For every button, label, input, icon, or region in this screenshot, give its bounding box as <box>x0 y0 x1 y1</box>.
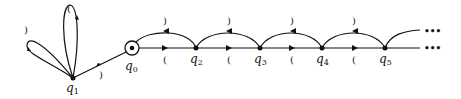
svg-text:q1: q1 <box>66 81 79 96</box>
svg-text:): ) <box>99 69 103 80</box>
forward-chain: ( ( ( ( <box>139 45 420 65</box>
svg-text:(: ( <box>163 54 167 65</box>
continuation-top: ••• <box>424 26 441 36</box>
state-q0: q0 <box>125 41 139 74</box>
loop-q1-open: ( <box>64 3 79 78</box>
svg-text:q5: q5 <box>379 52 392 67</box>
svg-text:q0: q0 <box>125 59 138 74</box>
svg-text:): ) <box>163 15 167 26</box>
edge-q0-q1: ) <box>73 52 126 80</box>
state-q4: q4 <box>316 46 329 68</box>
svg-text:(: ( <box>352 54 356 65</box>
continuation-bottom: ••• <box>424 43 441 53</box>
svg-text:): ) <box>24 24 28 35</box>
state-q2: q2 <box>190 46 203 68</box>
state-q3: q3 <box>254 46 267 68</box>
svg-text:(: ( <box>67 3 71 14</box>
automaton-diagram: ( ) ) ( ( ( ( ) ) ) ) ••• <box>0 0 461 99</box>
svg-text:): ) <box>227 15 231 26</box>
svg-text:(: ( <box>290 54 294 65</box>
svg-text:q2: q2 <box>190 52 203 67</box>
svg-text:(: ( <box>227 54 231 65</box>
svg-text:q4: q4 <box>316 52 329 67</box>
state-q1: q1 <box>66 76 79 97</box>
state-q5: q5 <box>379 46 392 68</box>
svg-text:): ) <box>290 15 294 26</box>
svg-text:): ) <box>352 15 356 26</box>
backward-arcs: ) ) ) ) <box>136 15 420 48</box>
svg-text:q3: q3 <box>254 52 267 67</box>
